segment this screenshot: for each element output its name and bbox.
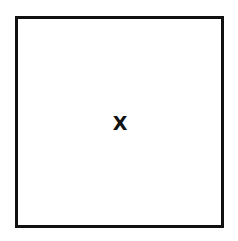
box-label: X bbox=[18, 19, 221, 225]
square-box: X bbox=[15, 16, 224, 228]
